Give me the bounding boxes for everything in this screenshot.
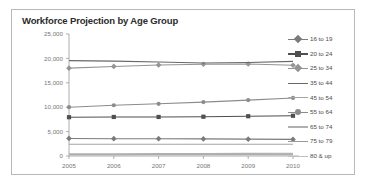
series-marker	[156, 136, 162, 142]
legend-swatch-icon	[288, 107, 308, 117]
legend-marker-diamond-icon	[294, 64, 302, 72]
legend-swatch-icon	[288, 136, 308, 146]
data-series	[67, 96, 295, 109]
legend-item-16-to-19[interactable]: 16 to 19	[288, 32, 350, 47]
legend-label: 45 to 54	[308, 95, 332, 101]
legend-marker-square-icon	[295, 51, 301, 57]
y-axis-tick-label: 15,000	[44, 79, 63, 86]
legend-swatch-icon	[288, 49, 308, 59]
legend-item-80-up[interactable]: 80 & up	[288, 149, 350, 164]
data-series	[66, 136, 296, 143]
legend-marker-diamond-icon	[294, 35, 302, 43]
legend-label: 35 to 44	[308, 80, 332, 86]
series-line	[69, 98, 293, 107]
legend-item-25-to-34[interactable]: 25 to 34	[288, 61, 350, 76]
legend-label: 20 to 24	[308, 51, 332, 57]
legend-item-20-to-24[interactable]: 20 to 24	[288, 47, 350, 62]
legend-item-45-to-54[interactable]: 45 to 54	[288, 90, 350, 105]
legend-line	[288, 97, 308, 98]
legend-swatch-icon	[288, 63, 308, 73]
legend-label: 65 to 74	[308, 124, 332, 130]
legend-label: 75 to 79	[308, 138, 332, 144]
chart-legend: 16 to 1920 to 2425 to 3435 to 4445 to 54…	[288, 32, 350, 164]
series-line	[69, 138, 293, 139]
legend-marker-circle-icon	[295, 109, 301, 115]
legend-line	[288, 126, 308, 127]
y-axis-tick-label: 25,000	[44, 30, 63, 37]
legend-line	[288, 141, 308, 142]
series-marker	[246, 114, 250, 118]
series-marker	[156, 62, 162, 68]
series-line	[69, 116, 293, 117]
y-axis-tick-label: 20,000	[44, 55, 63, 62]
x-axis-tick-label: 2007	[152, 162, 166, 169]
x-axis-tick-label: 2009	[241, 162, 255, 169]
legend-label: 25 to 34	[308, 65, 332, 71]
series-line	[69, 61, 293, 63]
data-series	[69, 61, 293, 63]
legend-item-75-to-79[interactable]: 75 to 79	[288, 134, 350, 149]
series-marker	[112, 115, 116, 119]
series-marker	[111, 136, 117, 142]
x-axis-tick-label: 2006	[107, 162, 121, 169]
series-marker	[157, 102, 161, 106]
y-axis-tick-label: 10,000	[44, 103, 63, 110]
x-axis-tick-label: 2008	[197, 162, 211, 169]
legend-line	[288, 83, 308, 84]
legend-label: 55 to 64	[308, 109, 332, 115]
series-marker	[245, 136, 251, 142]
legend-swatch-icon	[288, 78, 308, 88]
y-axis-tick-label: 5,000	[48, 128, 64, 135]
legend-label: 80 & up	[308, 153, 331, 159]
series-marker	[201, 61, 207, 67]
legend-swatch-icon	[288, 34, 308, 44]
data-series	[67, 114, 295, 120]
legend-line	[288, 156, 308, 157]
legend-item-35-to-44[interactable]: 35 to 44	[288, 76, 350, 91]
legend-item-55-to-64[interactable]: 55 to 64	[288, 105, 350, 120]
legend-swatch-icon	[288, 93, 308, 103]
chart-frame: Workforce Projection by Age Group 05,000…	[11, 9, 355, 175]
series-marker	[111, 64, 117, 70]
series-marker	[157, 115, 161, 119]
series-marker	[201, 136, 207, 142]
legend-label: 16 to 19	[308, 36, 332, 42]
series-marker	[66, 136, 72, 142]
series-line	[69, 64, 293, 68]
x-axis-tick-label: 2005	[62, 162, 76, 169]
series-marker	[67, 115, 71, 119]
series-marker	[246, 98, 250, 102]
series-marker	[201, 100, 205, 104]
legend-swatch-icon	[288, 151, 308, 161]
series-marker	[67, 105, 71, 109]
series-marker	[66, 65, 72, 71]
legend-item-65-to-74[interactable]: 65 to 74	[288, 120, 350, 135]
legend-swatch-icon	[288, 122, 308, 132]
series-marker	[201, 115, 205, 119]
series-marker	[112, 103, 116, 107]
y-axis-tick-label: 0	[60, 152, 64, 159]
